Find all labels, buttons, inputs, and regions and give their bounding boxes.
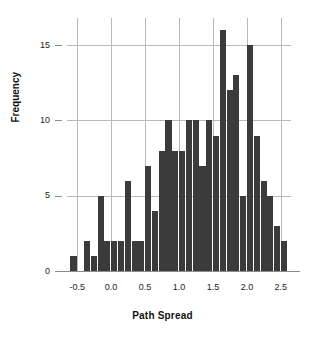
x-axis-line [55,271,300,272]
histogram-bar [193,120,199,271]
y-axis-tick-label: 10 [28,116,50,125]
histogram-bar [254,136,260,272]
histogram-bar [159,151,165,272]
y-axis-tick [55,271,62,272]
y-axis-tick [55,45,62,46]
histogram-bar [233,75,239,271]
histogram-bar [261,181,267,271]
histogram-bars [67,18,291,271]
histogram-bar [213,136,219,272]
x-axis-tick-label: 0.5 [130,283,160,292]
y-axis-tick [55,196,62,197]
histogram-bar [220,30,226,271]
y-axis-title-text: Frequency [10,72,21,123]
x-axis-tick-label: 0.0 [96,283,126,292]
y-axis-title: Frequency [10,109,21,123]
x-axis-tick-label: 1.0 [164,283,194,292]
histogram-bar [240,196,246,271]
histogram-bar [91,256,97,271]
histogram-bar [165,120,171,271]
histogram-bar [84,241,90,271]
histogram-bar [145,166,151,271]
plot-area [67,18,291,271]
histogram-bar [111,241,117,271]
x-axis-tick-label: 2.0 [232,283,262,292]
histogram-bar [172,151,178,272]
histogram-bar [104,241,110,271]
histogram-bar [281,241,287,271]
histogram-bar [118,241,124,271]
histogram-bar [70,256,76,271]
x-axis-tick-label: 1.5 [198,283,228,292]
histogram-bar [138,241,144,271]
histogram-bar [206,120,212,271]
y-axis-tick [55,120,62,121]
x-axis-title: Path Spread [0,310,325,321]
y-axis-tick-label: 15 [28,41,50,50]
histogram-bar [179,151,185,272]
histogram-bar [125,181,131,271]
histogram-bar [152,211,158,271]
histogram-figure: 051015 -0.50.00.51.01.52.02.5 Path Sprea… [0,0,325,338]
histogram-bar [199,166,205,271]
histogram-bar [247,45,253,271]
histogram-bar [267,196,273,271]
histogram-bar [132,241,138,271]
histogram-bar [227,90,233,271]
histogram-bar [186,120,192,271]
x-axis-tick-label: -0.5 [62,283,92,292]
y-axis-tick-label: 5 [28,191,50,200]
histogram-bar [274,226,280,271]
histogram-bar [98,196,104,271]
x-axis-tick-label: 2.5 [266,283,296,292]
y-axis-tick-label: 0 [28,267,50,276]
